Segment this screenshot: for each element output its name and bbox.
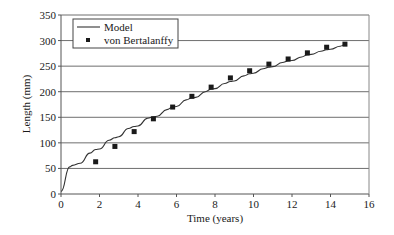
y-tick-label: 150 — [40, 111, 57, 123]
x-tick-label: 2 — [97, 198, 103, 210]
von-bertalanffy-point — [247, 68, 252, 73]
von-bertalanffy-point — [324, 45, 329, 50]
y-tick-label: 100 — [40, 137, 57, 149]
von-bertalanffy-point — [286, 56, 291, 61]
von-bertalanffy-point — [132, 129, 137, 134]
von-bertalanffy-point — [170, 105, 175, 110]
x-tick-label: 8 — [212, 198, 218, 210]
von-bertalanffy-point — [93, 159, 98, 164]
y-tick-label: 250 — [40, 60, 57, 72]
von-bertalanffy-point — [209, 85, 214, 90]
von-bertalanffy-point — [112, 144, 117, 149]
series — [61, 42, 347, 192]
chart: 050100150200250300350 0246810121416 Time… — [0, 0, 394, 235]
von-bertalanffy-point — [266, 62, 271, 67]
x-tick-label: 12 — [287, 198, 298, 210]
x-tick-label: 6 — [174, 198, 180, 210]
legend: Model von Bertalanffy — [73, 19, 178, 48]
x-tick-label: 16 — [364, 198, 376, 210]
y-tick-label: 50 — [45, 162, 57, 174]
y-axis-label: Length (mm) — [20, 74, 33, 133]
von-bertalanffy-point — [228, 75, 233, 80]
x-tick-label: 10 — [248, 198, 260, 210]
y-tick-label: 200 — [40, 86, 57, 98]
von-bertalanffy-point — [342, 42, 347, 47]
y-axis-ticks: 050100150200250300350 — [40, 9, 62, 200]
x-tick-label: 4 — [135, 198, 141, 210]
von-bertalanffy-point — [305, 50, 310, 55]
von-bertalanffy-point — [189, 94, 194, 99]
legend-vb-swatch — [86, 38, 90, 42]
y-tick-label: 0 — [51, 188, 57, 200]
x-tick-label: 0 — [58, 198, 64, 210]
y-tick-label: 300 — [40, 35, 57, 47]
x-axis-label: Time (years) — [187, 212, 243, 225]
y-tick-label: 350 — [40, 9, 57, 21]
legend-vb-label: von Bertalanffy — [104, 34, 174, 46]
x-axis-ticks: 0246810121416 — [58, 194, 375, 210]
x-tick-label: 14 — [325, 198, 337, 210]
legend-model-label: Model — [104, 21, 133, 33]
von-bertalanffy-point — [151, 116, 156, 121]
